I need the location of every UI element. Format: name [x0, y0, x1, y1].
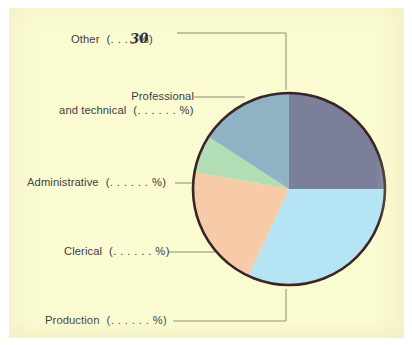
pie-label-production-blank[interactable]: (. . . . . . %) [107, 314, 168, 326]
pie-label-administrative-text: Administrative [27, 176, 99, 188]
pie-label-professional-line2-with-blank: and technical(. . . . . . %) [42, 104, 194, 118]
pie-label-professional: Professional and technical(. . . . . . %… [42, 90, 194, 117]
leader-line-other [177, 33, 286, 90]
pie-label-production-text: Production [45, 314, 100, 326]
screenshot-root: Other(. . . . %) 30 Professional and tec… [0, 0, 412, 345]
pie-label-clerical-blank[interactable]: (. . . . . . %) [109, 245, 170, 257]
leader-line-production [173, 289, 286, 321]
pie-slice-other[interactable] [289, 93, 385, 189]
pie-label-professional-text: and technical [59, 104, 126, 116]
pie-label-clerical: Clerical(. . . . . . %) [64, 245, 170, 258]
pie-label-administrative: Administrative(. . . . . . %) [27, 176, 166, 189]
pie-label-professional-blank[interactable]: (. . . . . . %) [133, 104, 194, 116]
pie-chart-figure: Other(. . . . %) 30 Professional and tec… [9, 8, 404, 338]
worksheet-page: Other(. . . . %) 30 Professional and tec… [9, 8, 404, 338]
pie-label-production: Production(. . . . . . %) [45, 314, 167, 327]
pie-label-other-text: Other [71, 33, 99, 45]
pie-label-administrative-blank[interactable]: (. . . . . . %) [106, 176, 167, 188]
pie-label-professional-line1: Professional [42, 90, 194, 104]
pie-chart-svg [9, 8, 404, 338]
handwritten-answer-other: 30 [129, 29, 148, 46]
pie-label-clerical-text: Clerical [64, 245, 102, 257]
